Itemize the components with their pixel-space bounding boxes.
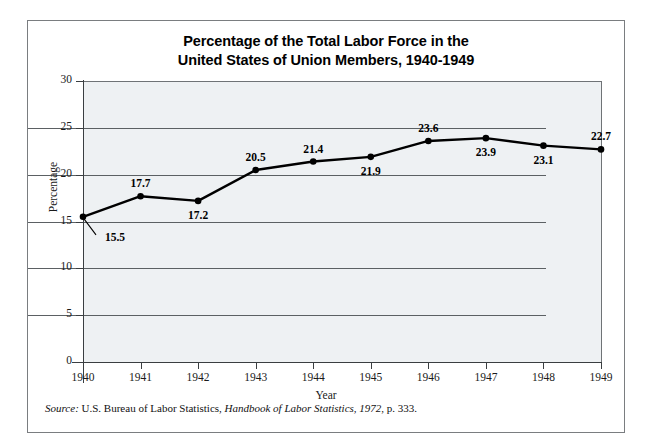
x-tick-label-1948: 1948 (513, 371, 573, 383)
page-title: Percentage of the Total Labor Force in t… (28, 32, 624, 70)
point-label-1941: 17.7 (118, 177, 164, 189)
y-tick-mark-0 (76, 362, 83, 363)
figure-frame: Percentage of the Total Labor Force in t… (27, 20, 625, 433)
source-prefix: Source: (45, 402, 79, 414)
x-axis-title: Year (28, 389, 624, 401)
y-tick-label-10: 10 (28, 260, 72, 272)
x-tick-mark-1946 (428, 362, 429, 369)
x-tick-mark-1947 (486, 362, 487, 369)
x-tick-mark-1941 (141, 362, 142, 369)
x-tick-label-1940: 1940 (53, 371, 113, 383)
y-tick-label-0: 0 (28, 354, 72, 366)
x-tick-label-1945: 1945 (341, 371, 401, 383)
gridline-25 (28, 128, 546, 129)
x-axis-line (72, 362, 602, 363)
y-tick-mark-25 (76, 128, 83, 129)
x-tick-label-1943: 1943 (226, 371, 286, 383)
point-label-1946: 23.6 (405, 122, 451, 134)
point-label-1945: 21.9 (348, 165, 394, 177)
x-tick-label-1949: 1949 (571, 371, 631, 383)
x-tick-mark-1944 (313, 362, 314, 369)
x-tick-mark-1948 (543, 362, 544, 369)
y-tick-mark-30 (76, 81, 83, 82)
point-label-1942: 17.2 (175, 209, 221, 221)
gridline-5 (28, 315, 546, 316)
point-label-1944: 21.4 (290, 143, 336, 155)
gridline-15 (28, 222, 546, 223)
source-text-2: , p. 333. (381, 402, 417, 414)
y-tick-mark-10 (76, 268, 83, 269)
point-label-1947: 23.9 (463, 146, 509, 158)
source-italic: Handbook of Labor Statistics, 1972 (225, 402, 382, 414)
x-tick-mark-1949 (601, 362, 602, 369)
x-tick-label-1941: 1941 (111, 371, 171, 383)
x-tick-label-1947: 1947 (456, 371, 516, 383)
x-tick-mark-1943 (256, 362, 257, 369)
y-axis-title: Percentage (47, 127, 59, 247)
x-tick-label-1944: 1944 (283, 371, 343, 383)
title-line-2: United States of Union Members, 1940-194… (28, 51, 624, 70)
point-label-1948: 23.1 (520, 154, 566, 166)
y-tick-mark-20 (76, 175, 83, 176)
y-tick-mark-15 (76, 222, 83, 223)
x-tick-label-1946: 1946 (398, 371, 458, 383)
y-axis-line (83, 80, 84, 383)
point-label-1943: 20.5 (233, 151, 279, 163)
title-line-1: Percentage of the Total Labor Force in t… (28, 32, 624, 51)
gridline-10 (28, 268, 546, 269)
y-tick-mark-5 (76, 315, 83, 316)
point-label-1940: 15.5 (92, 231, 138, 243)
x-tick-mark-1940 (83, 362, 84, 369)
y-tick-label-5: 5 (28, 307, 72, 319)
y-tick-label-30: 30 (28, 73, 72, 85)
x-tick-label-1942: 1942 (168, 371, 228, 383)
x-tick-mark-1945 (371, 362, 372, 369)
source-text-1: U.S. Bureau of Labor Statistics, (79, 402, 225, 414)
gridline-20 (28, 175, 546, 176)
point-label-1949: 22.7 (578, 130, 624, 142)
source-note: Source: U.S. Bureau of Labor Statistics,… (45, 402, 417, 414)
x-tick-mark-1942 (198, 362, 199, 369)
